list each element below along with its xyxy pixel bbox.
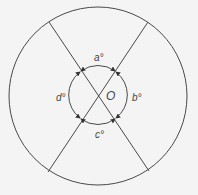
label-angle-b: b° (132, 92, 142, 103)
angle-arc-d (69, 72, 80, 118)
label-center-o: O (106, 89, 115, 103)
label-angle-c: c° (95, 129, 104, 140)
label-angle-a: a° (94, 52, 104, 63)
angle-arc-c (81, 119, 115, 125)
angle-arc-a (81, 65, 115, 71)
outer-circle (9, 7, 187, 185)
angle-arc-b (116, 72, 127, 118)
label-angle-d: d° (56, 92, 66, 103)
circle-angles-diagram: O a° b° c° d° (0, 0, 198, 195)
